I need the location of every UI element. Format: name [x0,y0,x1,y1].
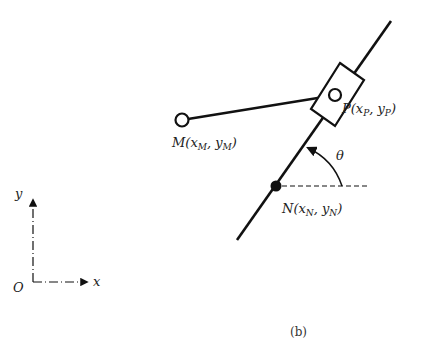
mechanism-diagram: θ P(xP, yP) M(xM, yM) N(xN, yN) y x O (b… [0,0,427,362]
link-rod [188,96,330,119]
joint-p-icon [329,89,341,101]
label-n: N(xN, yN) [281,201,342,218]
angle-label: θ [336,148,344,163]
x-axis-label: x [93,274,101,289]
y-axis-label: y [14,186,23,201]
joint-m-icon [176,114,189,127]
figure-caption: (b) [290,325,307,339]
point-n-icon [271,181,282,192]
label-m: M(xM, yM) [171,135,237,152]
origin-label: O [13,280,24,295]
label-p: P(xP, yP) [341,101,396,118]
